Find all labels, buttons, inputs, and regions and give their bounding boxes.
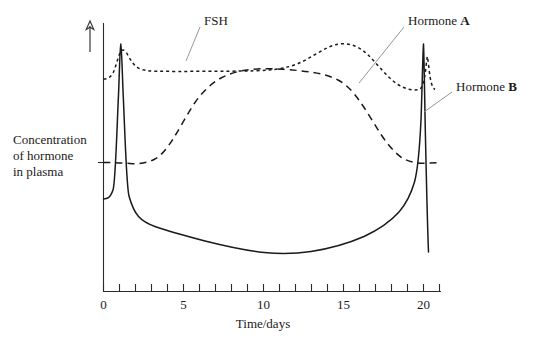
y-axis-title-line-2: of hormone [13,148,74,163]
leader-line-hormone-b [424,92,452,112]
x-tick-label-15: 15 [337,297,350,312]
series-label-hormone-b: Hormone B [456,79,517,94]
x-tick-label-10: 10 [257,297,270,312]
x-tick-label-0: 0 [100,297,107,312]
x-tick-label-5: 5 [180,297,187,312]
x-axis-minor-ticks [104,284,440,292]
y-axis-arrow-icon [86,21,94,52]
y-axis-title-line-3: in plasma [13,164,63,179]
chart-figure: 0 5 10 15 20 Time/days Concentration of … [0,0,535,339]
series-label-hormone-a: Hormone A [408,13,470,28]
x-axis-title: Time/days [236,316,290,331]
leader-line-hormone-a [359,27,404,83]
series-curve-hormone-a [104,69,439,164]
series-curve-hormone-b [104,44,429,254]
y-axis-title-line-1: Concentration [13,132,87,147]
hormone-concentration-line-chart: 0 5 10 15 20 Time/days Concentration of … [0,0,535,339]
leader-line-fsh [186,27,200,61]
x-tick-label-20: 20 [417,297,430,312]
series-label-fsh: FSH [204,13,228,28]
